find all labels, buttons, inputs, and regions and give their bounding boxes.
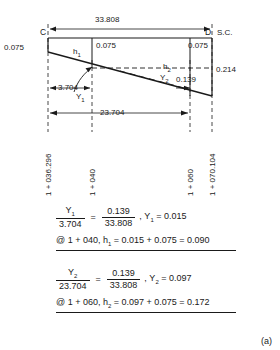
equations-section: Y1 3.704 = 0.139 33.808 , Y1 = 0.015 @ 1… — [0, 205, 280, 350]
elevation-right-edge: 0.214 — [216, 66, 236, 74]
dim-arrow-total-left — [50, 27, 56, 32]
equation-y1-lhs-numerator: Y1 — [63, 205, 78, 218]
equation-y2-operator: = — [90, 274, 107, 284]
station-label-4: 1 + 070.104 — [208, 154, 217, 196]
elevation-center-value: 0.139 — [176, 76, 196, 84]
sc-annotation: S.C. — [217, 29, 233, 37]
equation-y1-lhs-denominator: 3.704 — [56, 218, 85, 229]
dim-label-total: 33.808 — [95, 16, 119, 24]
equation-y2-lhs-numerator: Y2 — [65, 267, 80, 280]
variable-h2: h2 — [163, 63, 171, 73]
equation-y1-block: Y1 3.704 = 0.139 33.808 , Y1 = 0.015 @ 1… — [56, 205, 236, 251]
equation-y2-block: Y2 23.704 = 0.139 33.808 , Y2 = 0.097 @ … — [56, 267, 236, 313]
variable-y1: Y1 — [76, 93, 85, 103]
equation-y1-lhs-fraction: Y1 3.704 — [56, 205, 85, 229]
equation-y2-note-text: @ 1 + 060, h — [56, 297, 108, 307]
equation-y2-result: , Y2 = 0.097 — [140, 273, 191, 285]
equation-y1-underline — [56, 250, 236, 251]
variable-h1: h1 — [73, 48, 81, 58]
y1-leader-arrow — [86, 67, 93, 72]
y2-subscript: 2 — [165, 78, 168, 84]
dim-label-23704: 23.704 — [100, 109, 124, 117]
elevation-left-edge: 0.075 — [4, 44, 24, 52]
equation-y2-rhs-fraction: 0.139 33.808 — [107, 268, 141, 290]
equation-y2-rhs-denominator: 33.808 — [107, 279, 141, 290]
equation-y1-note: @ 1 + 040, h1 = 0.015 + 0.075 = 0.090 — [56, 235, 236, 247]
point-label-d: D — [205, 28, 211, 37]
equation-y1-note-text: @ 1 + 040, h — [56, 235, 108, 245]
equation-y1-result-subscript: 1 — [150, 217, 153, 223]
h1-subscript: 1 — [77, 52, 80, 58]
dim-arrow-3704-left — [50, 86, 56, 90]
equation-y1-row: Y1 3.704 = 0.139 33.808 , Y1 = 0.015 — [56, 205, 236, 229]
figure-container: C D S.C. 33.808 0.075 0.075 0.075 0.214 … — [0, 0, 280, 350]
equation-y1-note-tail: = 0.015 + 0.075 = 0.090 — [111, 235, 209, 245]
equation-y2-result-subscript: 2 — [155, 279, 158, 285]
equation-y2-note: @ 1 + 060, h2 = 0.097 + 0.075 = 0.172 — [56, 297, 236, 309]
dim-arrow-3704-right — [84, 86, 90, 90]
y1-subscript: 1 — [81, 97, 84, 103]
y2-num-subscript: 2 — [74, 273, 77, 279]
equation-y2-lhs-fraction: Y2 23.704 — [56, 267, 90, 291]
station-label-3: 1 + 060 — [186, 169, 195, 196]
equation-y1-rhs-fraction: 0.139 33.808 — [102, 206, 136, 228]
h2-subscript: 2 — [167, 67, 170, 73]
equation-y2-rhs-numerator: 0.139 — [109, 268, 138, 278]
dim-arrow-23704-right — [181, 111, 188, 116]
equation-y2-result-value: = 0.097 — [161, 273, 191, 283]
equation-y2-comma: , — [144, 273, 147, 283]
equation-y2-row: Y2 23.704 = 0.139 33.808 , Y2 = 0.097 — [56, 267, 236, 291]
equation-y2-note-tail: = 0.097 + 0.075 = 0.172 — [111, 297, 209, 307]
equation-y1-result-value: = 0.015 — [156, 211, 186, 221]
equation-y2-lhs-denominator: 23.704 — [56, 280, 90, 291]
equation-y1-result: , Y1 = 0.015 — [135, 211, 186, 223]
variable-y2: Y2 — [160, 74, 169, 84]
point-label-c: C — [40, 28, 46, 37]
equation-y1-rhs-numerator: 0.139 — [104, 206, 133, 216]
dim-arrow-23704-left — [50, 111, 57, 116]
equation-y1-operator: = — [85, 212, 102, 222]
elevation-mid-left: 0.075 — [96, 42, 116, 50]
equation-y2-underline — [56, 312, 236, 313]
station-label-2: 1 + 040 — [88, 169, 97, 196]
figure-label: (a) — [261, 336, 272, 346]
station-label-1: 1 + 036.296 — [44, 154, 53, 196]
y1-num-subscript: 1 — [72, 211, 75, 217]
equation-y1-comma: , — [139, 211, 142, 221]
equation-y1-rhs-denominator: 33.808 — [102, 217, 136, 228]
elevation-mid-right: 0.075 — [188, 42, 208, 50]
dim-label-3704: 3.704 — [58, 84, 78, 92]
